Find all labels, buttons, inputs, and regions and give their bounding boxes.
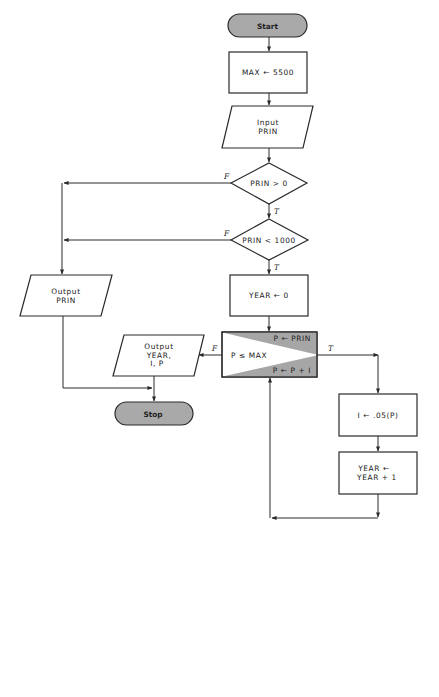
decision1-label: PRIN > 0 <box>250 179 288 188</box>
input-prin[interactable]: Input PRIN <box>222 106 313 148</box>
stop-label: Stop <box>143 410 162 419</box>
start-terminal[interactable]: Start <box>228 14 307 37</box>
process-increment-year[interactable]: YEAR ← YEAR + 1 <box>339 452 417 494</box>
process-init-year[interactable]: YEAR ← 0 <box>230 275 308 316</box>
output-results[interactable]: Output YEAR, I, P <box>113 335 204 376</box>
decision1-true-label: T <box>274 207 280 216</box>
output-results-line3: I, P <box>150 359 164 368</box>
decision2-label: PRIN < 1000 <box>242 236 296 245</box>
decision-prin-positive[interactable]: PRIN > 0 <box>231 163 307 204</box>
output-prin[interactable]: Output PRIN <box>20 275 112 316</box>
output-prin-line2: PRIN <box>56 296 76 305</box>
calc-interest-label: I ← .05(P) <box>357 411 398 420</box>
input-line1: Input <box>257 118 279 127</box>
loop-increment-label: P ← P + I <box>273 366 311 375</box>
process-calc-interest[interactable]: I ← .05(P) <box>339 394 417 436</box>
stop-terminal[interactable]: Stop <box>115 402 193 425</box>
input-line2: PRIN <box>258 127 278 136</box>
process-init-max[interactable]: MAX ← 5500 <box>229 52 307 93</box>
init-max-label: MAX ← 5500 <box>242 68 294 77</box>
init-year-label: YEAR ← 0 <box>248 291 289 300</box>
flowchart-canvas: Start MAX ← 5500 Input PRIN PRIN > 0 F T… <box>0 0 439 697</box>
increment-year-line1: YEAR ← <box>357 464 390 473</box>
output-prin-line1: Output <box>51 287 80 296</box>
start-label: Start <box>257 22 278 31</box>
decision-prin-limit[interactable]: PRIN < 1000 <box>231 219 308 260</box>
loop-condition-label: P ≤ MAX <box>231 351 267 360</box>
loop-true-label: T <box>328 344 334 353</box>
decision2-false-label: F <box>223 229 230 238</box>
increment-year-line2: YEAR + 1 <box>356 473 397 482</box>
loop-block[interactable]: P ← PRIN P ≤ MAX P ← P + I <box>222 332 317 377</box>
decision2-true-label: T <box>274 263 280 272</box>
loop-init-label: P ← PRIN <box>274 334 311 343</box>
loop-false-label: F <box>211 344 218 353</box>
decision1-false-label: F <box>223 172 230 181</box>
